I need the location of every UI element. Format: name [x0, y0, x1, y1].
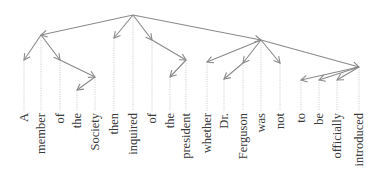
word-label: whether: [200, 112, 214, 153]
word-label: A: [17, 113, 31, 122]
guide-lines: [24, 15, 359, 111]
word-label: president: [179, 112, 193, 158]
dependency-tree-diagram: AmemberoftheSocietytheninquiredofthepres…: [0, 0, 382, 179]
dependency-arc: [133, 15, 152, 40]
dependency-arc: [77, 77, 95, 90]
word-label: the: [70, 113, 84, 129]
word-label: to: [294, 113, 308, 123]
arrowhead-icon: [24, 53, 30, 60]
word-labels: AmemberoftheSocietytheninquiredofthepres…: [17, 112, 366, 166]
dependency-arc: [24, 35, 41, 60]
word-label: of: [53, 112, 67, 123]
word-label: introduced: [352, 112, 366, 166]
dependency-arc: [224, 63, 243, 79]
dependency-arc: [261, 40, 359, 69]
dependency-arc: [152, 40, 186, 60]
dependency-arc: [207, 40, 261, 63]
dependency-arc: [301, 67, 359, 82]
word-label: not: [273, 112, 287, 129]
word-label: member: [34, 112, 48, 154]
word-label: be: [312, 113, 326, 125]
dependency-arc: [41, 15, 133, 37]
dependency-arc: [41, 35, 60, 60]
word-label: of: [145, 112, 159, 123]
dependency-arcs: [24, 15, 359, 90]
word-label: Ferguson: [236, 112, 250, 159]
word-label: the: [163, 113, 177, 129]
dependency-arc: [60, 60, 95, 77]
dependency-arc: [261, 40, 280, 63]
word-label: was: [254, 113, 268, 133]
word-label: then: [107, 112, 121, 134]
dependency-arc: [170, 60, 186, 77]
word-label: inquired: [126, 112, 140, 154]
word-label: Dr.: [217, 113, 231, 129]
word-label: Society: [88, 112, 102, 150]
word-label: officially: [330, 112, 344, 158]
